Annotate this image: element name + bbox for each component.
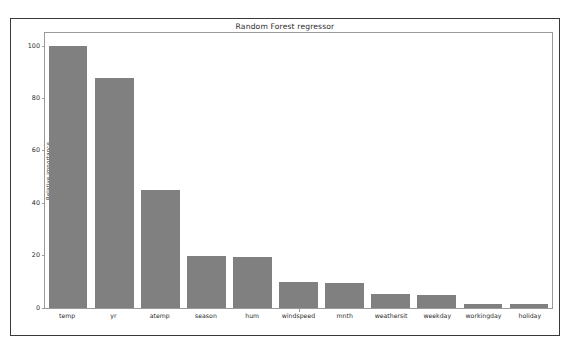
- bar-atemp: [141, 190, 180, 308]
- x-tick-label: hum: [229, 312, 275, 319]
- bar-hum: [233, 257, 272, 308]
- y-tick-label: 0: [36, 304, 40, 312]
- bar-slot: [229, 33, 275, 308]
- bar-mnth: [325, 283, 364, 308]
- bar-slot: [506, 33, 552, 308]
- x-tick-label: weekday: [414, 312, 460, 319]
- bar-season: [187, 256, 226, 308]
- bar-temp: [49, 46, 88, 308]
- figure-frame: Random Forest regressor Relative importa…: [10, 18, 560, 336]
- chart-title: Random Forest regressor: [11, 22, 559, 31]
- x-tick-label: yr: [90, 312, 136, 319]
- bar-slot: [322, 33, 368, 308]
- x-tick-mark: [299, 309, 300, 312]
- bar-slot: [91, 33, 137, 308]
- bar-weathersit: [371, 294, 410, 308]
- bar-windspeed: [279, 282, 318, 308]
- x-tick-label: windspeed: [275, 312, 321, 319]
- x-tick-label: workingday: [460, 312, 506, 319]
- x-tick-label: atemp: [137, 312, 183, 319]
- x-tick-label: season: [183, 312, 229, 319]
- bar-holiday: [510, 304, 549, 308]
- bar-workingday: [464, 304, 503, 308]
- x-tick-label: temp: [44, 312, 90, 319]
- x-tick-label: holiday: [507, 312, 553, 319]
- bar-slot: [368, 33, 414, 308]
- bar-slot: [183, 33, 229, 308]
- y-tick-label: 60: [32, 146, 40, 154]
- bar-slot: [275, 33, 321, 308]
- y-tick-label: 20: [32, 251, 40, 259]
- bars-layer: [45, 33, 552, 308]
- bar-slot: [460, 33, 506, 308]
- x-axis-ticks: tempyratempseasonhumwindspeedmnthweather…: [44, 312, 553, 319]
- bar-yr: [95, 78, 134, 308]
- x-tick-label: weathersit: [368, 312, 414, 319]
- bar-weekday: [417, 295, 456, 308]
- bar-slot: [45, 33, 91, 308]
- y-tick-label: 40: [32, 199, 40, 207]
- plot-area: Relative importance 020406080100: [44, 32, 553, 309]
- y-tick-label: 80: [32, 94, 40, 102]
- x-tick-label: mnth: [322, 312, 368, 319]
- bar-slot: [414, 33, 460, 308]
- y-tick-label: 100: [28, 42, 40, 50]
- bar-slot: [137, 33, 183, 308]
